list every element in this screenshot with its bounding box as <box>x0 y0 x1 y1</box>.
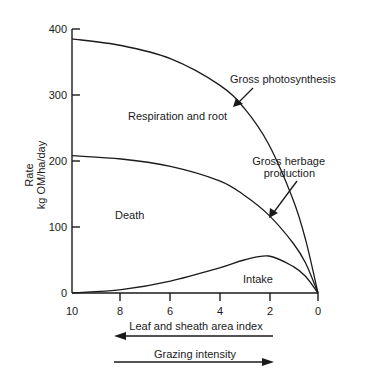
y-axis-label-units: kg OM/ha/day <box>35 140 47 209</box>
arrow-left-icon <box>114 332 126 340</box>
y-axis-label-rate: Rate <box>23 163 35 186</box>
x-tick-0: 0 <box>315 305 321 317</box>
lai-direction-arrow <box>114 332 273 340</box>
x-tick-6: 6 <box>167 305 173 317</box>
x-axis-label: Leaf and sheath area index <box>129 320 263 332</box>
annotation-arrow-line <box>238 88 253 103</box>
annotation-ghp-line2: production <box>264 167 315 179</box>
y-tick-400: 400 <box>49 23 67 35</box>
arrow-right-icon <box>262 358 274 366</box>
label-intake: Intake <box>243 273 273 285</box>
y-tick-100: 100 <box>49 221 67 233</box>
x-tick-10: 10 <box>66 305 78 317</box>
y-tick-0: 0 <box>61 287 67 299</box>
y-axis-label: Rate kg OM/ha/day <box>23 140 47 209</box>
y-tick-200: 200 <box>49 155 67 167</box>
label-respiration-and-root: Respiration and root <box>128 110 227 122</box>
curve-intake <box>72 256 318 293</box>
x-axis <box>72 293 318 301</box>
annotation-arrow-line <box>274 181 297 212</box>
y-axis <box>72 29 80 293</box>
label-death: Death <box>115 209 144 221</box>
annotation-gross-photosynthesis: Gross photosynthesis <box>230 73 336 107</box>
x-tick-labels: 10 8 6 4 2 0 <box>66 305 321 317</box>
y-tick-300: 300 <box>49 89 67 101</box>
y-tick-labels: 400 300 200 100 0 <box>49 23 67 299</box>
annotation-gross-herbage-production: Gross herbage production <box>252 155 325 218</box>
x-tick-8: 8 <box>117 305 123 317</box>
x-tick-2: 2 <box>267 305 273 317</box>
grazing-intensity-label: Grazing intensity <box>154 348 236 360</box>
x-tick-4: 4 <box>217 305 223 317</box>
annotation-gross-photosynthesis-label: Gross photosynthesis <box>230 73 336 85</box>
annotation-ghp-line1: Gross herbage <box>252 155 325 167</box>
chart: 400 300 200 100 0 10 8 6 4 2 0 Rate kg O… <box>0 0 367 380</box>
